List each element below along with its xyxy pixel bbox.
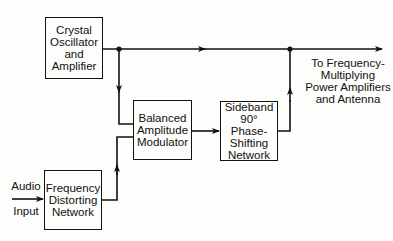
balanced-modulator-block: Balanced Amplitude Modulator: [133, 100, 192, 160]
block-label: Network: [221, 149, 277, 161]
block-label: Sideband: [221, 101, 277, 113]
block-label: Balanced: [137, 112, 188, 124]
output-label-line: Multiplying: [302, 69, 393, 81]
crystal-oscillator-block: Crystal Oscillator and Amplifier: [45, 17, 103, 79]
output-label-line: To Frequency-: [302, 57, 393, 69]
block-label: Oscillator: [50, 36, 98, 48]
output-destination-label: To Frequency- Multiplying Power Amplifie…: [302, 57, 393, 105]
output-label-line: and Antenna: [302, 93, 393, 105]
block-label: Network: [46, 206, 100, 218]
junction-dot: [287, 46, 292, 51]
block-label: Modulator: [137, 136, 188, 148]
block-label: Distorting: [46, 194, 100, 206]
block-label: Shifting: [221, 137, 277, 149]
block-label: and: [50, 48, 98, 60]
block-label: 90° Phase-: [221, 113, 277, 137]
sideband-phase-shifting-block: Sideband 90° Phase- Shifting Network: [220, 101, 278, 161]
block-label: Amplifier: [50, 60, 98, 72]
junction-dot: [116, 46, 121, 51]
audio-input-label-bottom: Input: [10, 205, 42, 217]
block-label: Amplitude: [137, 124, 188, 136]
output-label-line: Power Amplifiers: [302, 81, 393, 93]
block-label: Frequency: [46, 182, 100, 194]
block-label: Crystal: [50, 24, 98, 36]
frequency-distorting-block: Frequency Distorting Network: [44, 170, 102, 230]
audio-input-label-top: Audio: [10, 180, 42, 192]
